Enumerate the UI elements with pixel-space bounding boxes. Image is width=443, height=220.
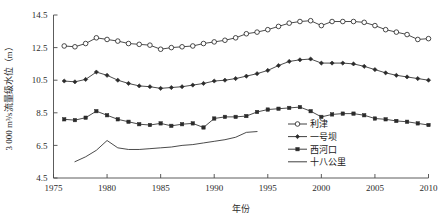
data-point-square	[395, 119, 398, 122]
data-point-open-circle	[212, 40, 217, 45]
data-point-diamond	[330, 61, 334, 65]
data-point-open-circle	[255, 30, 260, 35]
data-point-square	[63, 118, 66, 121]
data-point-diamond	[426, 78, 430, 82]
data-point-square	[288, 106, 291, 109]
data-point-square	[191, 122, 194, 125]
data-point-diamond	[223, 78, 227, 82]
data-point-open-circle	[190, 44, 195, 49]
data-point-square	[127, 120, 130, 123]
data-point-open-circle	[405, 32, 410, 37]
data-point-open-circle	[394, 30, 399, 35]
chart-page: 4.56.58.510.512.514.51975198019851990199…	[0, 0, 443, 220]
series-3	[63, 105, 431, 129]
data-point-open-circle	[137, 42, 142, 47]
data-point-diamond	[159, 86, 163, 90]
chart-legend: 利津一号坝西河口十八公里	[288, 118, 346, 167]
x-axis-title: 年份	[232, 203, 250, 214]
data-point-square	[159, 122, 162, 125]
data-point-square	[320, 115, 323, 118]
legend-item-label: 一号坝	[310, 132, 337, 142]
x-axis-tick-label: 1975	[45, 183, 64, 193]
data-point-open-circle	[62, 44, 67, 49]
data-point-square	[341, 112, 344, 115]
x-axis-tick-label: 1995	[259, 183, 278, 193]
data-point-square	[73, 118, 76, 121]
data-point-open-circle	[287, 21, 292, 26]
y-axis-tick-label: 8.5	[36, 108, 48, 118]
data-point-square	[309, 109, 312, 112]
data-point-open-circle	[83, 41, 88, 46]
data-point-diamond	[309, 57, 313, 61]
data-point-open-circle	[94, 36, 99, 41]
data-point-diamond	[212, 79, 216, 83]
data-point-square	[384, 118, 387, 121]
data-point-open-circle	[298, 19, 303, 24]
y-axis-tick-label: 14.5	[32, 10, 48, 20]
data-point-open-circle	[169, 45, 174, 50]
legend-item-2: 一号坝	[288, 132, 337, 142]
data-point-diamond	[319, 61, 323, 65]
data-point-open-circle	[426, 36, 431, 41]
legend-item-4: 十八公里	[288, 156, 346, 167]
data-point-open-circle	[295, 122, 300, 127]
data-point-square	[296, 148, 299, 151]
data-point-open-circle	[415, 37, 420, 42]
series-2	[62, 57, 430, 91]
data-point-square	[298, 105, 301, 108]
data-point-diamond	[191, 83, 195, 87]
data-point-square	[277, 107, 280, 110]
data-point-diamond	[201, 81, 205, 85]
data-point-diamond	[234, 76, 238, 80]
data-point-diamond	[180, 85, 184, 89]
data-point-square	[405, 120, 408, 123]
y-axis-tick-label: 10.5	[32, 75, 48, 85]
data-point-diamond	[287, 59, 291, 63]
series-1	[62, 18, 431, 51]
data-point-diamond	[373, 68, 377, 72]
data-point-open-circle	[362, 20, 367, 25]
data-point-square	[170, 124, 173, 127]
data-point-open-circle	[308, 18, 313, 23]
data-point-diamond	[105, 73, 109, 77]
data-point-square	[245, 114, 248, 117]
data-point-square	[427, 123, 430, 126]
y-axis-tick-label: 4.5	[36, 173, 48, 183]
data-point-square	[363, 114, 366, 117]
data-point-diamond	[116, 78, 120, 82]
data-point-diamond	[73, 80, 77, 84]
data-point-diamond	[295, 135, 299, 139]
data-point-diamond	[341, 61, 345, 65]
data-point-diamond	[276, 63, 280, 67]
x-axis-tick-label: 2005	[366, 183, 385, 193]
data-point-square	[138, 123, 141, 126]
legend-item-label: 十八公里	[310, 156, 346, 167]
data-point-square	[223, 115, 226, 118]
data-point-open-circle	[105, 37, 110, 42]
data-point-square	[202, 126, 205, 129]
data-point-open-circle	[383, 27, 388, 32]
data-point-open-circle	[233, 36, 238, 41]
data-point-open-circle	[148, 43, 153, 48]
data-point-diamond	[137, 84, 141, 88]
data-point-square	[116, 118, 119, 121]
data-point-open-circle	[126, 41, 131, 46]
data-point-diamond	[416, 76, 420, 80]
y-axis-title: 3 000 m³/s流量级水位（m）	[3, 42, 14, 150]
data-point-open-circle	[73, 44, 78, 49]
data-point-diamond	[266, 68, 270, 72]
legend-item-3: 西河口	[288, 144, 337, 155]
data-point-diamond	[351, 62, 355, 66]
data-point-diamond	[148, 85, 152, 89]
data-point-open-circle	[201, 41, 206, 46]
series-line-path	[75, 132, 257, 162]
data-point-open-circle	[158, 47, 163, 52]
data-point-square	[95, 109, 98, 112]
data-point-diamond	[62, 79, 66, 83]
line-chart: 4.56.58.510.512.514.51975198019851990199…	[0, 0, 443, 220]
data-point-diamond	[384, 71, 388, 75]
legend-item-label: 利津	[310, 118, 328, 129]
data-point-square	[266, 108, 269, 111]
data-point-diamond	[298, 58, 302, 62]
data-point-diamond	[405, 75, 409, 79]
